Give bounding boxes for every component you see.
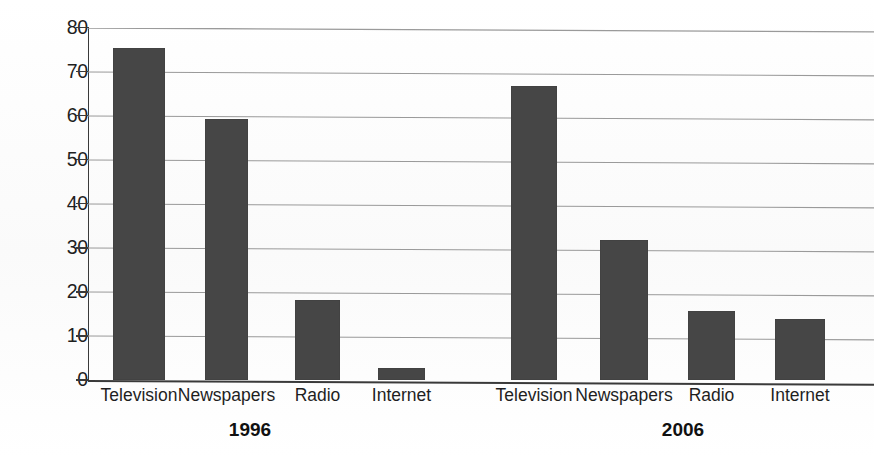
bar — [378, 368, 425, 380]
bar — [511, 86, 557, 380]
category-label: Internet — [740, 386, 860, 404]
bar — [295, 300, 340, 380]
gridline — [88, 28, 874, 32]
gridline — [88, 72, 874, 76]
bar — [600, 240, 648, 380]
bar — [205, 119, 248, 380]
bar — [775, 319, 825, 380]
category-label: Internet — [342, 386, 462, 404]
panel-year-label: 1996 — [190, 419, 310, 441]
bar-chart-figure: Percent 01020304050607080 TelevisionNews… — [0, 0, 874, 459]
panel-year-label: 2006 — [623, 419, 743, 441]
bar — [113, 48, 165, 380]
bar — [688, 311, 735, 380]
plot-area — [88, 28, 874, 381]
